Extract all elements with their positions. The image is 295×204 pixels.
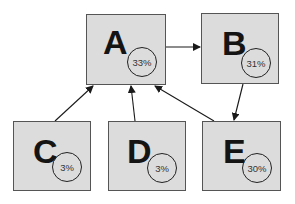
node-d-percentage: 3% [147, 153, 177, 183]
node-a: A 33% [86, 14, 166, 85]
node-b-percentage: 31% [241, 48, 271, 78]
edge-d-to-a [131, 86, 135, 121]
node-a-label: A [103, 25, 128, 59]
edge-b-to-e [234, 84, 243, 120]
node-b: B 31% [201, 13, 279, 84]
node-c: C 3% [13, 121, 91, 191]
node-e: E 30% [202, 121, 281, 191]
edge-e-to-a [155, 86, 214, 121]
node-e-percentage: 30% [242, 153, 272, 183]
node-c-percentage: 3% [52, 152, 82, 182]
node-d: D 3% [108, 121, 186, 191]
edge-c-to-a [55, 86, 93, 121]
node-a-percentage: 33% [127, 47, 157, 77]
